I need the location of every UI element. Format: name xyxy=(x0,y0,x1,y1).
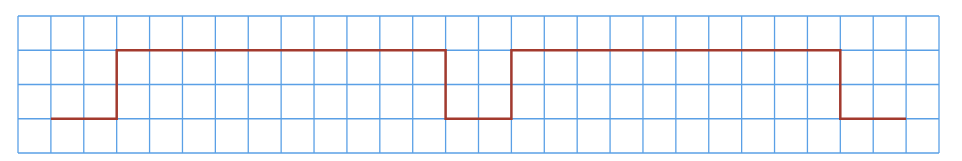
grid xyxy=(18,16,939,153)
square-wave-diagram xyxy=(0,0,962,161)
